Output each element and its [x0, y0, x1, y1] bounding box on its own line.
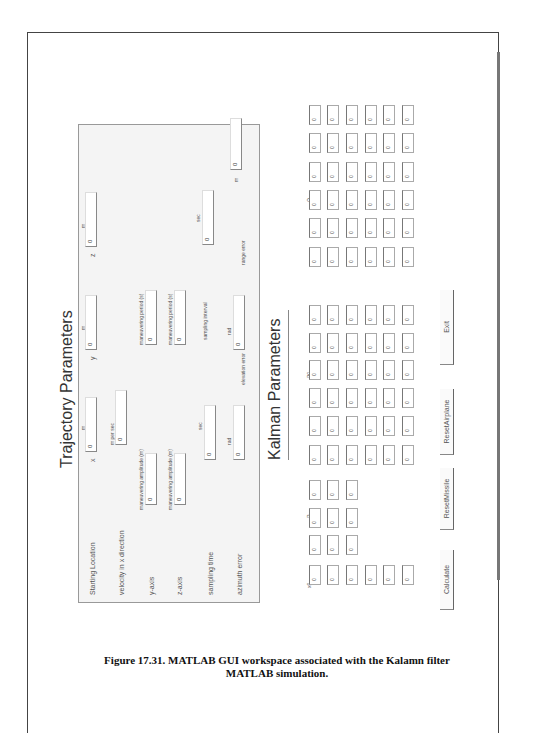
p0-cell[interactable]: 0 — [346, 416, 358, 436]
azimuth-error-input[interactable]: 0 — [233, 405, 245, 460]
q-cell[interactable]: 0 — [309, 247, 321, 267]
reset-airplane-button[interactable]: ResetAirplane — [440, 389, 454, 455]
q-cell[interactable]: 0 — [383, 105, 395, 125]
q-cell[interactable]: 0 — [327, 247, 339, 267]
q-cell[interactable]: 0 — [402, 162, 414, 182]
p0-cell[interactable]: 0 — [327, 333, 339, 353]
q-cell[interactable]: 0 — [365, 218, 377, 238]
p0-cell[interactable]: 0 — [402, 305, 414, 325]
p0-cell[interactable]: 0 — [365, 305, 377, 325]
p0-cell[interactable]: 0 — [383, 445, 395, 465]
q-cell[interactable]: 0 — [346, 133, 358, 153]
q-cell[interactable]: 0 — [309, 105, 321, 125]
q-cell[interactable]: 0 — [309, 218, 321, 238]
q-cell[interactable]: 0 — [346, 105, 358, 125]
q-cell[interactable]: 0 — [327, 190, 339, 210]
x0-cell[interactable]: 0 — [365, 565, 377, 585]
q-cell[interactable]: 0 — [327, 105, 339, 125]
q-cell[interactable]: 0 — [327, 162, 339, 182]
q-cell[interactable]: 0 — [402, 133, 414, 153]
p0-cell[interactable]: 0 — [402, 360, 414, 380]
p0-cell[interactable]: 0 — [309, 360, 321, 380]
r-cell[interactable]: 0 — [327, 508, 339, 528]
q-cell[interactable]: 0 — [383, 247, 395, 267]
p0-cell[interactable]: 0 — [327, 305, 339, 325]
p0-cell[interactable]: 0 — [346, 388, 358, 408]
p0-cell[interactable]: 0 — [346, 305, 358, 325]
q-cell[interactable]: 0 — [402, 105, 414, 125]
q-cell[interactable]: 0 — [383, 218, 395, 238]
x0-cell[interactable]: 0 — [346, 565, 358, 585]
p0-cell[interactable]: 0 — [383, 360, 395, 380]
q-cell[interactable]: 0 — [402, 218, 414, 238]
r-cell[interactable]: 0 — [327, 480, 339, 500]
p0-cell[interactable]: 0 — [383, 388, 395, 408]
q-cell[interactable]: 0 — [365, 133, 377, 153]
p0-cell[interactable]: 0 — [309, 333, 321, 353]
q-cell[interactable]: 0 — [365, 247, 377, 267]
r-cell[interactable]: 0 — [309, 535, 321, 555]
r-cell[interactable]: 0 — [346, 480, 358, 500]
p0-cell[interactable]: 0 — [402, 416, 414, 436]
sampling-time-input[interactable]: 0 — [204, 405, 216, 460]
p0-cell[interactable]: 0 — [309, 305, 321, 325]
q-cell[interactable]: 0 — [346, 247, 358, 267]
r-cell[interactable]: 0 — [346, 508, 358, 528]
q-cell[interactable]: 0 — [383, 133, 395, 153]
p0-cell[interactable]: 0 — [402, 445, 414, 465]
q-cell[interactable]: 0 — [365, 105, 377, 125]
q-cell[interactable]: 0 — [402, 247, 414, 267]
r-cell[interactable]: 0 — [346, 535, 358, 555]
q-cell[interactable]: 0 — [346, 190, 358, 210]
r-cell[interactable]: 0 — [327, 535, 339, 555]
z-amplitude-input[interactable]: 0 — [174, 453, 186, 505]
q-cell[interactable]: 0 — [346, 162, 358, 182]
p0-cell[interactable]: 0 — [327, 360, 339, 380]
p0-cell[interactable]: 0 — [383, 305, 395, 325]
r-cell[interactable]: 0 — [309, 508, 321, 528]
q-cell[interactable]: 0 — [383, 162, 395, 182]
p0-cell[interactable]: 0 — [309, 388, 321, 408]
x0-cell[interactable]: 0 — [383, 565, 395, 585]
p0-cell[interactable]: 0 — [383, 416, 395, 436]
start-z-input[interactable]: 0 — [85, 192, 97, 247]
range-error-input[interactable]: 0 — [230, 118, 242, 170]
sampling-interval-input[interactable]: 0 — [202, 190, 214, 245]
p0-cell[interactable]: 0 — [327, 388, 339, 408]
p0-cell[interactable]: 0 — [365, 388, 377, 408]
p0-cell[interactable]: 0 — [365, 360, 377, 380]
p0-cell[interactable]: 0 — [402, 388, 414, 408]
x0-cell[interactable]: 0 — [309, 565, 321, 585]
q-cell[interactable]: 0 — [327, 218, 339, 238]
p0-cell[interactable]: 0 — [327, 416, 339, 436]
p0-cell[interactable]: 0 — [346, 360, 358, 380]
p0-cell[interactable]: 0 — [402, 333, 414, 353]
q-cell[interactable]: 0 — [383, 190, 395, 210]
q-cell[interactable]: 0 — [402, 190, 414, 210]
start-y-input[interactable]: 0 — [85, 295, 97, 350]
p0-cell[interactable]: 0 — [327, 445, 339, 465]
exit-button[interactable]: Exit — [440, 290, 454, 365]
p0-cell[interactable]: 0 — [365, 416, 377, 436]
p0-cell[interactable]: 0 — [383, 333, 395, 353]
q-cell[interactable]: 0 — [309, 162, 321, 182]
p0-cell[interactable]: 0 — [309, 445, 321, 465]
q-cell[interactable]: 0 — [309, 133, 321, 153]
y-period-input[interactable]: 0 — [145, 290, 157, 345]
x0-cell[interactable]: 0 — [327, 565, 339, 585]
p0-cell[interactable]: 0 — [365, 445, 377, 465]
calculate-button[interactable]: Calculate — [440, 550, 454, 610]
q-cell[interactable]: 0 — [309, 190, 321, 210]
q-cell[interactable]: 0 — [365, 190, 377, 210]
elevation-error-input[interactable]: 0 — [233, 295, 245, 350]
reset-missile-button[interactable]: ResetMissile — [440, 468, 454, 530]
q-cell[interactable]: 0 — [346, 218, 358, 238]
p0-cell[interactable]: 0 — [309, 416, 321, 436]
p0-cell[interactable]: 0 — [346, 333, 358, 353]
z-period-input[interactable]: 0 — [174, 290, 186, 345]
velocity-x-input[interactable]: 0 — [115, 390, 127, 445]
start-x-input[interactable]: 0 — [85, 397, 97, 452]
q-cell[interactable]: 0 — [365, 162, 377, 182]
r-cell[interactable]: 0 — [309, 480, 321, 500]
p0-cell[interactable]: 0 — [346, 445, 358, 465]
